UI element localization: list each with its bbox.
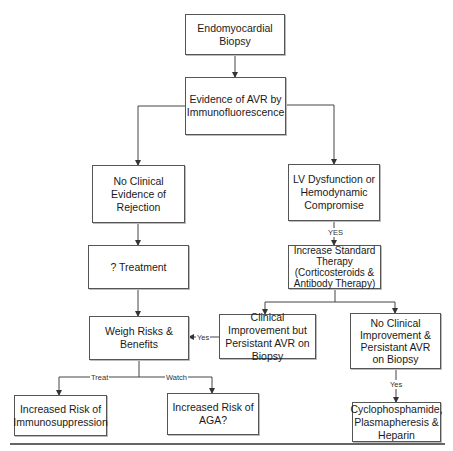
node-increase-therapy: Increase Standard Therapy (Corticosteroi… [288, 245, 381, 289]
node-aga: Increased Risk of AGA? [167, 393, 259, 435]
edge-label-yes-clinical: Yes [196, 333, 210, 342]
node-lv-dysfunction: LV Dysfunction or Hemodynamic Compromise [288, 164, 380, 221]
edge-label-treat: Treat [90, 373, 109, 382]
node-biopsy: Endomyocardial Biopsy [185, 14, 285, 55]
node-no-clinical-evidence: No Clinical Evidence of Rejection [92, 165, 185, 223]
node-no-clinical-improvement: No Clinical Improvement & Persistant AVR… [350, 313, 441, 369]
connector-lines [0, 0, 453, 451]
edge-label-yes-lv: YES [327, 228, 344, 237]
node-treatment: ? Treatment [88, 245, 189, 289]
node-immunosuppression: Increased Risk of Immunosuppression [14, 395, 107, 436]
node-cyclophosphamide: Cyclophosphamide, Plasmapheresis & Hepar… [352, 402, 441, 442]
edge-label-watch: Watch [165, 373, 188, 382]
node-weigh: Weigh Risks & Benefits [89, 316, 189, 360]
node-clinical-improvement: Clinical Improvement but Persistant AVR … [219, 314, 316, 359]
edge-label-yes-no-improvement: Yes [389, 380, 403, 389]
node-evidence: Evidence of AVR by Immunofluorescence [185, 77, 286, 135]
